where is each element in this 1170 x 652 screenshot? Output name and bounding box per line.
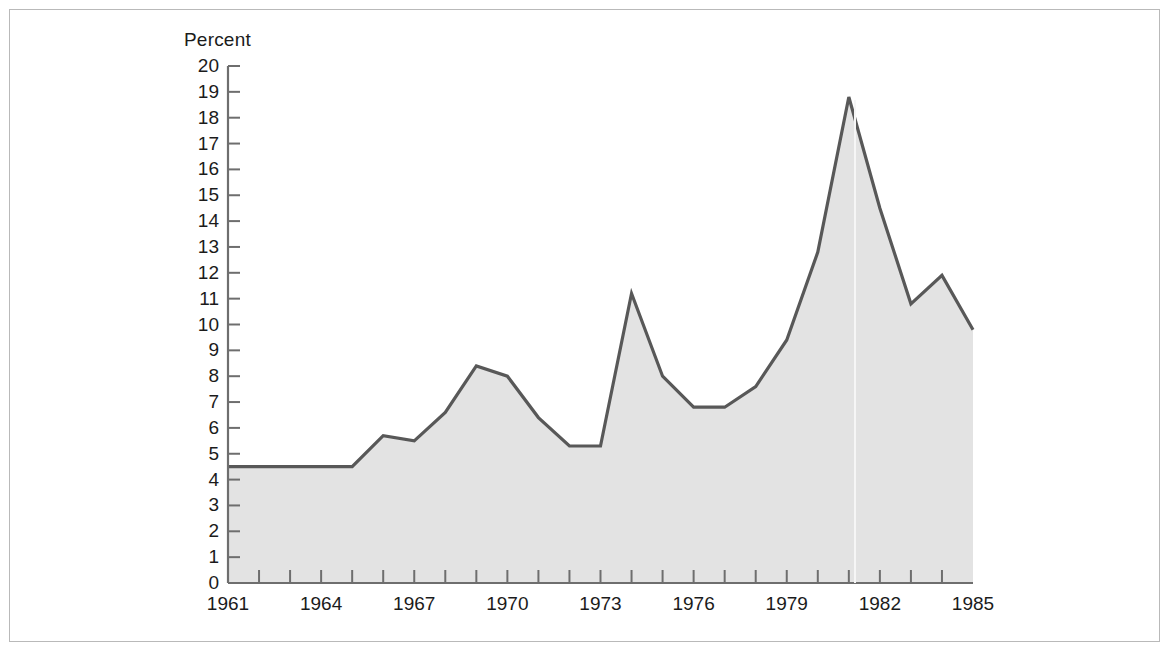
figure-root: Percent 20191817161514131211109876543210… <box>0 0 1170 652</box>
chart-area: Percent 20191817161514131211109876543210… <box>0 0 1170 652</box>
line-area-plot <box>0 0 1170 652</box>
area-fill <box>228 97 973 583</box>
